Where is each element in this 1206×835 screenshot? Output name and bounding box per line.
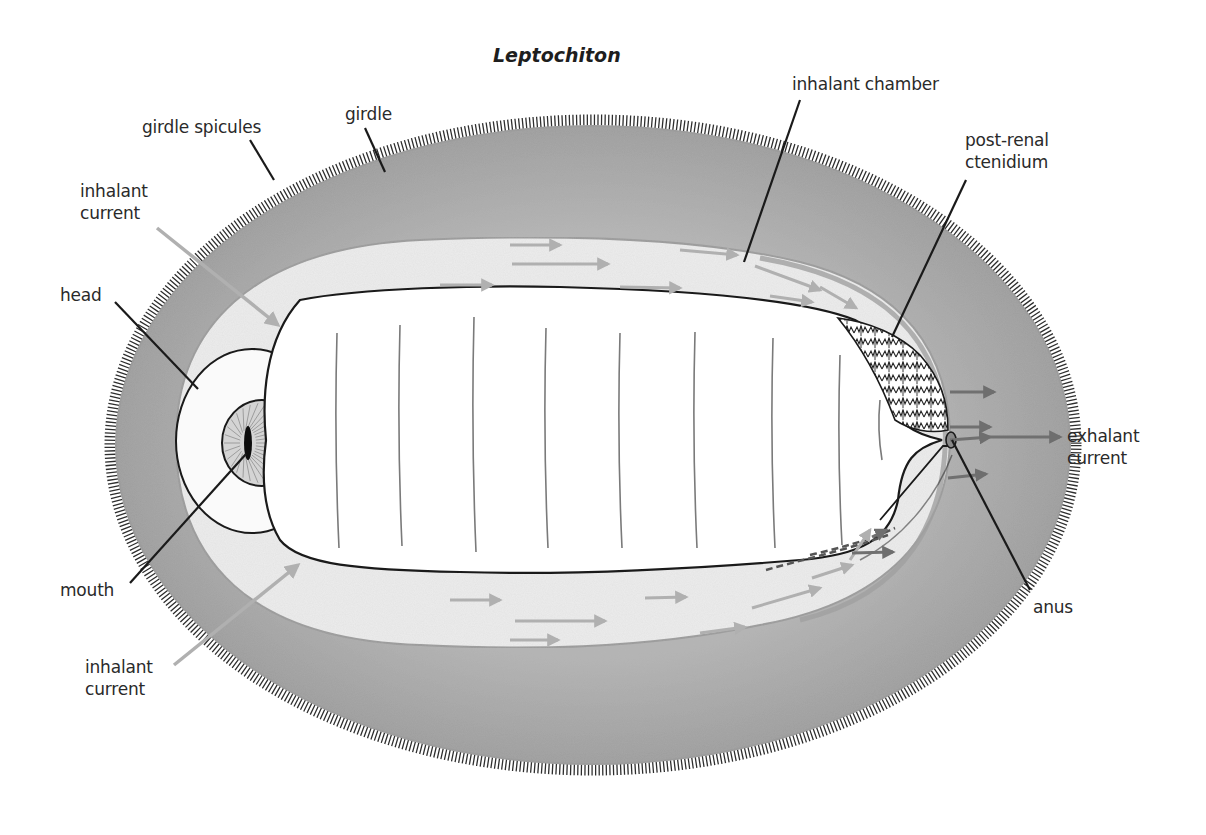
leader-line-girdle-spicules <box>250 140 274 180</box>
foot <box>264 286 942 572</box>
label-head: head <box>60 284 102 306</box>
label-girdle-spicules: girdle spicules <box>142 116 261 138</box>
exhalant-flow-arrow <box>852 552 893 553</box>
inhalant-flow-arrow <box>620 287 680 288</box>
label-inhalant-chamber: inhalant chamber <box>792 73 939 95</box>
label-mouth: mouth <box>60 579 114 601</box>
label-exhalant-current: exhalant current <box>1067 425 1139 469</box>
label-anus: anus <box>1033 596 1073 618</box>
label-girdle: girdle <box>345 103 392 125</box>
label-inhalant-current-bottom: inhalant current <box>85 656 153 700</box>
leptochiton-diagram: Leptochiton <box>0 0 1206 835</box>
label-post-renal-ctenidium: post-renal ctenidium <box>965 129 1049 173</box>
label-inhalant-current-top: inhalant current <box>80 180 148 224</box>
inhalant-flow-arrow <box>645 597 686 598</box>
